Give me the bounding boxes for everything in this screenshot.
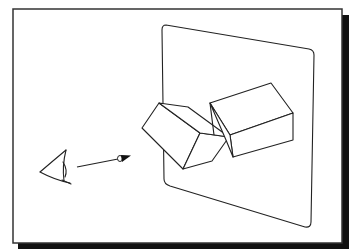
diagram-canvas [0,0,354,251]
